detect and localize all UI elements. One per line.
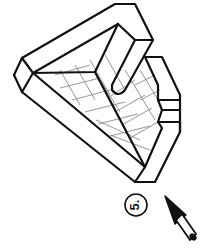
view-direction-arrow-icon (165, 196, 198, 242)
svg-text:5.: 5. (127, 200, 142, 211)
isometric-drawing: 5. (0, 0, 219, 251)
step-label: 5. (125, 194, 147, 216)
